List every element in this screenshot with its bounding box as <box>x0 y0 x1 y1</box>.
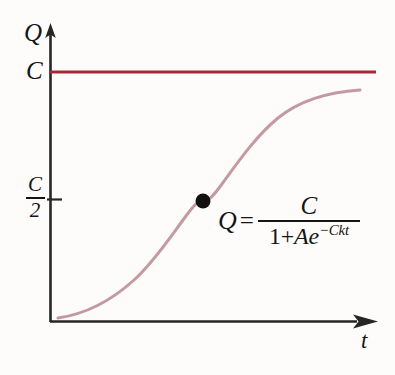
y-tick-label-c: C <box>26 58 43 83</box>
plot-canvas <box>0 0 395 375</box>
y-axis-label: Q <box>24 20 42 45</box>
equation-label: Q = C 1+Ae−Ckt <box>218 192 360 249</box>
denominator-prefix: 1+ <box>269 223 294 249</box>
equation-fraction: C 1+Ae−Ckt <box>258 192 360 249</box>
c-half-denominator: 2 <box>23 200 47 222</box>
denominator-a: A <box>294 223 308 249</box>
inflection-point-marker <box>196 194 211 209</box>
equation-numerator: C <box>291 192 328 220</box>
c-half-numerator: C <box>23 174 47 196</box>
equation-equals-sign: = <box>239 208 258 233</box>
x-axis-label: t <box>361 329 367 352</box>
y-tick-label-c-half: C 2 <box>23 174 47 222</box>
equation-denominator: 1+Ae−Ckt <box>267 222 351 249</box>
denominator-exponent: −Ckt <box>319 222 349 238</box>
equation-lhs: Q <box>218 208 239 234</box>
denominator-e: e <box>309 223 319 249</box>
logistic-growth-figure: Q t C C 2 Q = C 1+Ae−Ckt <box>0 0 395 375</box>
